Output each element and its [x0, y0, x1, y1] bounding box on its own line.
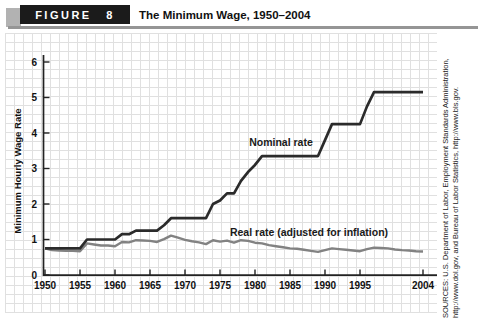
header-rule — [8, 26, 478, 29]
real-rate-label: Real rate (adjusted for inflation) — [230, 226, 388, 238]
x-tick-label: 1975 — [209, 280, 232, 291]
y-tick-label: 3 — [31, 163, 37, 174]
y-tick-label: 5 — [31, 92, 37, 103]
y-tick-label: 6 — [31, 57, 37, 68]
x-tick-label: 1970 — [174, 280, 197, 291]
x-tick-label: 1960 — [104, 280, 127, 291]
x-tick-label: 2004 — [412, 280, 435, 291]
x-tick-label: 1985 — [279, 280, 302, 291]
figure-page: FIGURE 8 The Minimum Wage, 1950–2004 Min… — [0, 0, 478, 322]
figure-label-shadow — [6, 8, 21, 27]
sources-note: SOURCES: U.S. Department of Labor, Emplo… — [441, 40, 471, 318]
x-tick-label: 1965 — [139, 280, 162, 291]
chart-area: Minimum Hourly Wage Rate 012345619501955… — [5, 33, 437, 313]
x-tick-label: 1950 — [34, 280, 57, 291]
figure-label: FIGURE 8 — [35, 9, 115, 21]
x-tick-label: 1980 — [244, 280, 267, 291]
x-tick-label: 1955 — [69, 280, 92, 291]
y-tick-label: 4 — [31, 128, 37, 139]
x-tick-label: 1995 — [349, 280, 372, 291]
y-tick-label: 2 — [31, 199, 37, 210]
y-tick-label: 0 — [31, 270, 37, 281]
x-tick-label: 1990 — [314, 280, 337, 291]
real-rate-line — [45, 236, 423, 252]
chart-canvas: 0123456195019551960196519701975198019851… — [5, 33, 437, 313]
y-tick-label: 1 — [31, 234, 37, 245]
figure-title: The Minimum Wage, 1950–2004 — [139, 5, 311, 24]
nominal-rate-line — [45, 92, 423, 248]
figure-label-box: FIGURE 8 — [20, 5, 130, 24]
nominal-rate-label: Nominal rate — [249, 136, 313, 148]
